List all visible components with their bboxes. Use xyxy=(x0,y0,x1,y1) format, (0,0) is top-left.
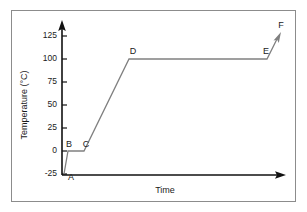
x-axis xyxy=(62,171,286,179)
y-axis-title: Temperature (°C) xyxy=(19,70,29,139)
data-point-label-b: B xyxy=(66,139,72,149)
y-tick-label-50: 50 xyxy=(48,99,58,109)
data-point-labels: A B C D E F xyxy=(66,20,284,182)
y-tick-labels: 125 100 75 50 25 0 -25 xyxy=(43,30,57,178)
y-tick-label-75: 75 xyxy=(48,76,58,86)
y-tick-label-neg25: -25 xyxy=(45,168,58,178)
y-tick-label-125: 125 xyxy=(43,30,57,40)
y-tick-label-100: 100 xyxy=(43,53,57,63)
data-point-label-d: D xyxy=(130,46,137,56)
data-series-heating-curve xyxy=(64,32,281,174)
heating-curve-path xyxy=(64,39,277,174)
heating-curve-chart: 125 100 75 50 25 0 -25 Temperature (°C) … xyxy=(0,0,307,212)
y-axis xyxy=(58,20,66,175)
data-point-label-c: C xyxy=(83,139,90,149)
data-point-label-a: A xyxy=(68,172,74,182)
y-tick-label-0: 0 xyxy=(52,145,57,155)
y-tick-label-25: 25 xyxy=(48,122,58,132)
x-axis-title: Time xyxy=(155,185,175,195)
data-point-label-f: F xyxy=(278,20,284,30)
figure-root: 125 100 75 50 25 0 -25 Temperature (°C) … xyxy=(0,0,307,212)
heating-curve-arrowhead xyxy=(274,32,282,43)
data-point-label-e: E xyxy=(263,46,269,56)
